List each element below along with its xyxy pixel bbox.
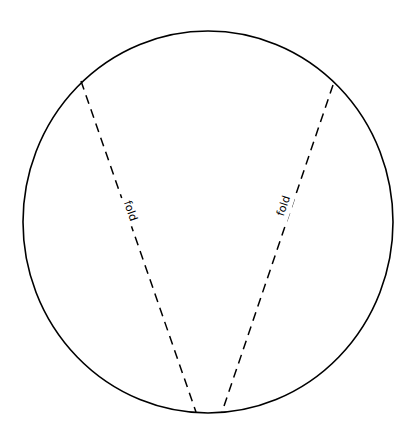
fold-diagram: fold fold	[0, 0, 417, 435]
fold-line-right	[222, 85, 333, 412]
fold-line-left	[81, 81, 196, 412]
fold-label-left: fold	[121, 199, 140, 223]
circle-outline	[23, 31, 393, 413]
fold-label-right: fold	[274, 194, 293, 218]
